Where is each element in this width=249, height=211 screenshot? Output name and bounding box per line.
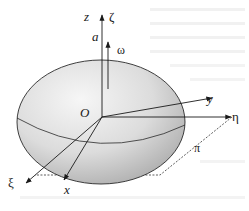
label-y: y: [205, 91, 213, 106]
label-omega: ω: [117, 43, 125, 57]
label-z: z: [83, 9, 89, 24]
label-xi: ξ: [8, 175, 14, 190]
ellipsoid-body: [17, 60, 185, 184]
label-zeta: ζ: [109, 9, 115, 24]
label-origin: O: [80, 105, 90, 120]
label-eta: η: [232, 109, 239, 124]
label-x: x: [63, 182, 70, 197]
label-pi: π: [194, 141, 200, 155]
label-a: a: [92, 29, 99, 44]
ellipsoid-diagram: z ζ a ω O y η π ξ x: [0, 0, 249, 211]
